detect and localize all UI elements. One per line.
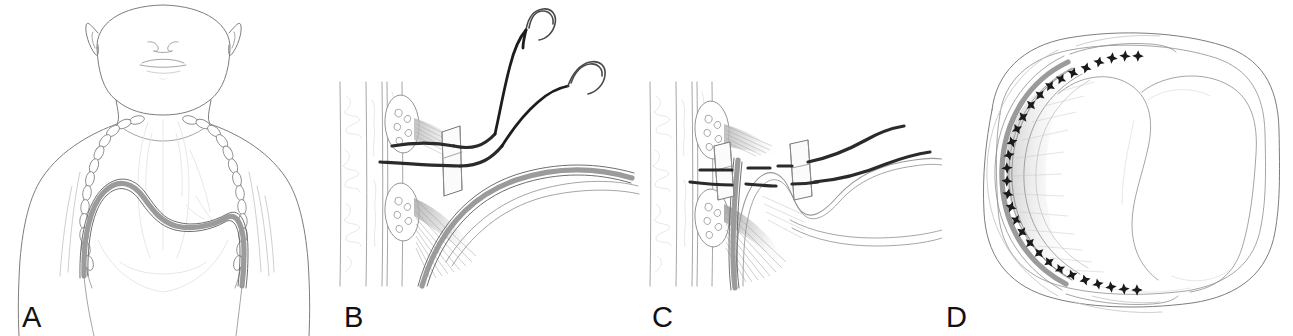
panel-c: C [642, 0, 942, 336]
suture-knot [1119, 50, 1131, 62]
figure-root: A [0, 0, 1293, 336]
diaphragm-lower-edge [790, 220, 942, 246]
curved-needle-upper [523, 9, 555, 48]
suture-knot [1106, 52, 1119, 65]
suture-knot [1092, 55, 1106, 69]
panel-label-a: A [22, 303, 41, 332]
ear-right-icon [229, 23, 242, 55]
rib-chain-left [80, 114, 146, 288]
panel-a: A [0, 0, 330, 336]
suture-tails [495, 30, 568, 146]
mouth-icon [140, 59, 186, 73]
panel-b: B [330, 0, 642, 336]
panel-a-illustration [0, 0, 330, 336]
ear-left-icon [86, 23, 99, 55]
diaphragm-band [80, 179, 248, 336]
panel-label-d: D [946, 303, 967, 332]
chest-cavity [1058, 76, 1256, 292]
panel-d-illustration [942, 0, 1293, 336]
pledget-plate-lateral [790, 140, 812, 200]
panel-c-illustration [642, 0, 942, 336]
suture-knot [1105, 281, 1118, 294]
lung-fields [138, 120, 212, 258]
panel-label-b: B [344, 303, 363, 332]
nose-icon [148, 42, 178, 53]
curved-needle-lower [568, 62, 605, 94]
suture-knot [1078, 273, 1092, 287]
panel-d: D [942, 0, 1293, 336]
suture-knot [1079, 61, 1093, 75]
suture-knot [1091, 277, 1105, 291]
suture-knot [1132, 50, 1144, 62]
chin-crease [160, 78, 167, 80]
suture-knot [1118, 283, 1130, 295]
panel-b-illustration [330, 0, 642, 336]
pledget-plate [442, 126, 462, 196]
infant-head [97, 5, 230, 115]
panel-label-c: C [652, 303, 673, 332]
